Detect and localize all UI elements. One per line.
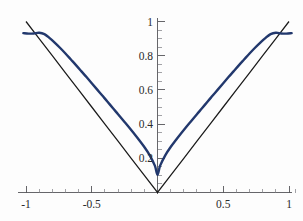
y-tick-label: 0.4 (139, 118, 154, 130)
y-tick-label: 1 (147, 16, 153, 28)
x-axis-tick-labels: -1-0.50.51 (21, 198, 292, 210)
x-tick-label: -0.5 (83, 198, 101, 210)
y-tick-label: 0.6 (139, 84, 154, 96)
y-tick-label: 0.2 (139, 152, 154, 164)
y-tick-label: 0.8 (139, 50, 154, 62)
x-axis-minor-ticks (39, 189, 295, 193)
x-tick-label: 1 (286, 198, 292, 210)
plot-container: -1-0.50.51 0.20.40.60.81 (0, 0, 303, 221)
y-axis-minor-ticks (158, 30, 162, 184)
y-axis-major-ticks (158, 22, 165, 159)
x-tick-label: -1 (21, 198, 31, 210)
x-tick-label: 0.5 (216, 198, 231, 210)
chart-canvas: -1-0.50.51 0.20.40.60.81 (0, 0, 303, 221)
